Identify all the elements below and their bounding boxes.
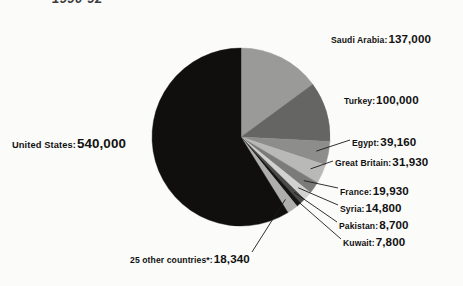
slice-label-value: 39,160 xyxy=(380,135,416,148)
slice-label-value: 100,000 xyxy=(376,93,419,106)
leader-line xyxy=(294,192,337,222)
slice-label-name: Pakistan: xyxy=(339,221,378,231)
slice-label-name: Kuwait: xyxy=(343,238,375,248)
slice-label-value: 137,000 xyxy=(388,32,431,45)
slice-label-name: Syria: xyxy=(340,204,365,214)
slice-label-united-states: United States:540,000 xyxy=(12,137,126,150)
leader-line xyxy=(291,195,341,239)
slice-label-pakistan: Pakistan:8,700 xyxy=(339,219,409,231)
slice-label-great-britain: Great Britain:31,930 xyxy=(335,156,428,168)
slice-label-value: 8,700 xyxy=(379,218,409,231)
slice-label-value: 540,000 xyxy=(77,136,126,151)
slice-label-other-countries: 25 other countries*:18,340 xyxy=(130,253,250,265)
slice-label-turkey: Turkey:100,000 xyxy=(344,94,419,106)
slice-label-name: Turkey: xyxy=(344,96,375,106)
chart-canvas: 1990-92 Saudi Arabia:137,000 Turkey:100,… xyxy=(0,0,463,286)
slice-label-name: 25 other countries*: xyxy=(130,255,213,265)
slice-label-name: Great Britain: xyxy=(335,158,391,168)
slice-label-value: 7,800 xyxy=(376,235,406,248)
slice-label-syria: Syria:14,800 xyxy=(340,202,402,214)
slice-label-name: United States: xyxy=(12,140,76,150)
slice-label-name: France: xyxy=(340,187,372,197)
slice-label-value: 14,800 xyxy=(366,201,402,214)
slice-label-france: France:19,930 xyxy=(340,185,409,197)
slice-label-value: 19,930 xyxy=(373,184,409,197)
pie-slices xyxy=(152,48,330,226)
slice-label-value: 31,930 xyxy=(392,155,428,168)
slice-label-saudi-arabia: Saudi Arabia:137,000 xyxy=(331,33,431,45)
slice-label-name: Egypt: xyxy=(352,138,379,148)
slice-label-value: 18,340 xyxy=(214,252,250,265)
slice-label-name: Saudi Arabia: xyxy=(331,35,387,45)
slice-label-kuwait: Kuwait:7,800 xyxy=(343,236,405,248)
slice-label-egypt: Egypt:39,160 xyxy=(352,136,416,148)
